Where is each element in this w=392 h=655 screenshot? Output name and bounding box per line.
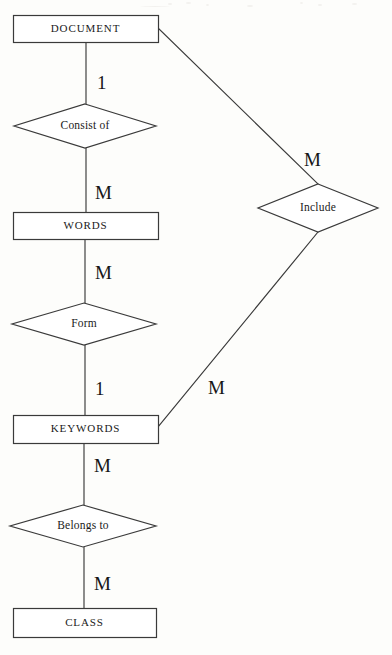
relationship-diamond-include xyxy=(258,184,378,232)
er-diagram-canvas: DOCUMENTWORDSKEYWORDSCLASSConsist ofForm… xyxy=(0,0,392,655)
connector-include-keywords xyxy=(158,232,318,427)
entity-box-document xyxy=(14,16,159,43)
relationship-diamond-belongs-to xyxy=(10,505,156,547)
connector-document-include xyxy=(158,28,318,184)
shape-layer xyxy=(10,16,378,638)
entity-box-class xyxy=(14,609,157,638)
diagram-vector-layer xyxy=(0,0,392,655)
relationship-diamond-form xyxy=(12,303,156,345)
relationship-diamond-consist-of xyxy=(14,104,156,148)
entity-box-words xyxy=(14,213,159,240)
entity-box-keywords xyxy=(14,416,159,444)
